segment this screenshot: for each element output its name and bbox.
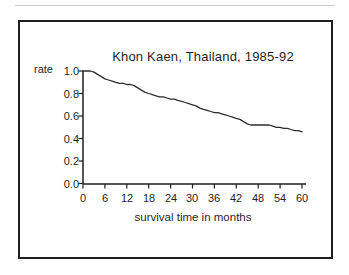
y-tick-label-0.2: 0.2 — [45, 154, 79, 168]
x-tick-label-0: 0 — [71, 191, 95, 205]
x-axis-label: survival time in months — [93, 210, 293, 224]
y-tick-label-0.6: 0.6 — [45, 109, 79, 123]
x-tick-label-42: 42 — [224, 191, 248, 205]
x-tick-label-12: 12 — [115, 191, 139, 205]
chart-title: Khon Kaen, Thailand, 1985-92 — [83, 49, 323, 65]
x-tick-label-48: 48 — [246, 191, 270, 205]
survival-curve — [83, 71, 302, 132]
y-tick-label-0.4: 0.4 — [45, 132, 79, 146]
survival-chart-figure: Khon Kaen, Thailand, 1985-92 rate 1.0 0.… — [0, 0, 349, 275]
x-tick-label-54: 54 — [268, 191, 292, 205]
x-tick-label-6: 6 — [93, 191, 117, 205]
y-tick-label-1.0: 1.0 — [45, 64, 79, 78]
x-tick-label-60: 60 — [290, 191, 314, 205]
x-tick-label-18: 18 — [137, 191, 161, 205]
y-tick-label-0.0: 0.0 — [45, 177, 79, 191]
x-tick-label-30: 30 — [180, 191, 204, 205]
x-tick-label-36: 36 — [202, 191, 226, 205]
y-tick-label-0.8: 0.8 — [45, 87, 79, 101]
